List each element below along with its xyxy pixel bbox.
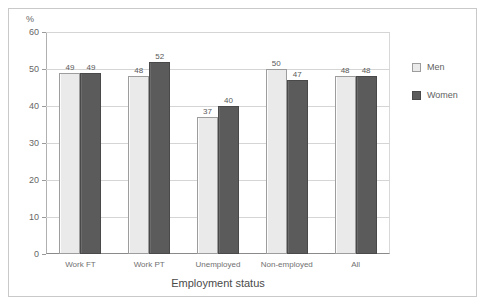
bar-men-non-employed[interactable]: 50: [266, 69, 287, 254]
bar-value-label: 50: [272, 59, 281, 68]
x-axis-category-label: All: [351, 260, 360, 269]
y-axis-tick-label: 20: [29, 175, 39, 185]
bar-group: 4848All: [321, 32, 390, 254]
bar-men-work-ft[interactable]: 49: [59, 73, 80, 254]
bar-men-work-pt[interactable]: 48: [128, 76, 149, 254]
y-axis-tick-label: 40: [29, 101, 39, 111]
legend-swatch-icon: [412, 91, 421, 100]
legend-item-label: Men: [427, 62, 445, 72]
x-axis-category-label: Work PT: [134, 260, 165, 269]
bar-value-label: 52: [155, 52, 164, 61]
y-axis-tick-label: 60: [29, 27, 39, 37]
bar-value-label: 40: [224, 96, 233, 105]
bar-men-unemployed[interactable]: 37: [197, 117, 218, 254]
bar-women-unemployed[interactable]: 40: [218, 106, 239, 254]
legend-swatch-icon: [412, 63, 421, 72]
bar-value-label: 48: [134, 66, 143, 75]
bar-men-all[interactable]: 48: [335, 76, 356, 254]
plot-area: 0102030405060 4949Work FT4852Work PT3740…: [46, 32, 390, 254]
y-axis-tick: [42, 254, 46, 255]
chart-legend: MenWomen: [412, 62, 476, 118]
x-axis-category-label: Work FT: [65, 260, 96, 269]
legend-item-label: Women: [427, 90, 458, 100]
bar-women-work-pt[interactable]: 52: [149, 62, 170, 254]
y-axis-tick-label: 0: [34, 249, 39, 259]
x-axis-category-label: Non-employed: [261, 260, 313, 269]
bar-women-work-ft[interactable]: 49: [80, 73, 101, 254]
bar-value-label: 49: [86, 63, 95, 72]
bar-women-non-employed[interactable]: 47: [287, 80, 308, 254]
x-axis-title: Employment status: [46, 277, 390, 289]
bar-group: 3740Unemployed: [184, 32, 253, 254]
legend-item-women[interactable]: Women: [412, 90, 476, 100]
y-axis-tick-label: 30: [29, 138, 39, 148]
bar-group: 4852Work PT: [115, 32, 184, 254]
bar-value-label: 47: [293, 70, 302, 79]
y-axis-tick-label: 10: [29, 212, 39, 222]
y-axis-unit-label: %: [26, 14, 34, 24]
x-axis-category-label: Unemployed: [196, 260, 241, 269]
bar-group: 4949Work FT: [46, 32, 115, 254]
bar-value-label: 48: [341, 66, 350, 75]
legend-item-men[interactable]: Men: [412, 62, 476, 72]
bar-value-label: 48: [362, 66, 371, 75]
bar-value-label: 37: [203, 107, 212, 116]
y-axis-tick-label: 50: [29, 64, 39, 74]
bar-value-label: 49: [65, 63, 74, 72]
bar-women-all[interactable]: 48: [356, 76, 377, 254]
chart-figure: % 0102030405060 4949Work FT4852Work PT37…: [0, 0, 485, 305]
bar-group: 5047Non-employed: [252, 32, 321, 254]
